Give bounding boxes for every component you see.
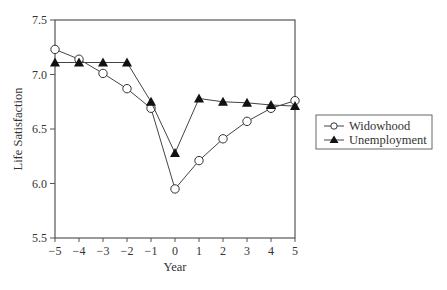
y-axis-title: Life Satisfaction: [11, 87, 25, 171]
y-tick-label: 6.0: [32, 177, 47, 191]
open-circle-marker-icon: [331, 123, 337, 129]
legend-label-widowhood: Widowhood: [349, 119, 411, 133]
open-circle-marker-icon: [123, 84, 131, 92]
series-layer: [50, 45, 300, 193]
x-tick-label: 5: [292, 244, 298, 258]
series-widowhood: [51, 45, 299, 193]
open-circle-marker-icon: [171, 185, 179, 193]
x-tick-label: 2: [220, 244, 226, 258]
x-tick-label: 1: [196, 244, 202, 258]
filled-triangle-marker-icon: [194, 93, 204, 102]
filled-triangle-marker-icon: [146, 97, 156, 106]
legend-label-unemployment: Unemployment: [349, 133, 427, 147]
chart-canvas: 5.56.06.57.07.5 −5−4−3−2−1012345 Life Sa…: [0, 0, 447, 290]
y-tick-label: 7.0: [32, 68, 47, 82]
open-circle-marker-icon: [195, 156, 203, 164]
open-circle-marker-icon: [219, 135, 227, 143]
y-tick-label: 5.5: [32, 231, 47, 245]
x-tick-label: −1: [145, 244, 158, 258]
x-tick-label: 0: [172, 244, 178, 258]
x-tick-label: −3: [97, 244, 110, 258]
series-unemployment: [50, 58, 300, 157]
legend: Widowhood Unemployment: [316, 115, 432, 149]
filled-triangle-marker-icon: [170, 148, 180, 157]
open-circle-marker-icon: [51, 45, 59, 53]
life-satisfaction-chart: 5.56.06.57.07.5 −5−4−3−2−1012345 Life Sa…: [0, 0, 447, 290]
x-tick-label: −2: [121, 244, 134, 258]
open-circle-marker-icon: [243, 117, 251, 125]
x-tick-label: 3: [244, 244, 250, 258]
series-line: [55, 63, 295, 154]
x-tick-label: 4: [268, 244, 274, 258]
x-axis: −5−4−3−2−1012345: [49, 238, 298, 258]
x-tick-label: −5: [49, 244, 62, 258]
open-circle-marker-icon: [99, 69, 107, 77]
x-axis-title: Year: [163, 260, 187, 274]
series-line: [55, 49, 295, 189]
plot-area-border: [55, 20, 295, 238]
plot-frame: [55, 20, 295, 238]
x-tick-label: −4: [73, 244, 86, 258]
y-tick-label: 7.5: [32, 13, 47, 27]
y-tick-label: 6.5: [32, 122, 47, 136]
